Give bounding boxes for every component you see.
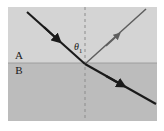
diagram-canvas: A B θ1 <box>0 0 164 131</box>
region-a-label: A <box>15 49 23 61</box>
theta-subscript: 1 <box>79 47 82 54</box>
refraction-diagram-figure: A B θ1 <box>0 0 164 131</box>
region-b-label: B <box>15 64 22 76</box>
